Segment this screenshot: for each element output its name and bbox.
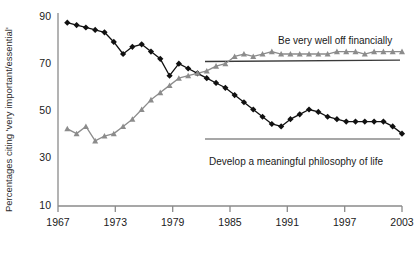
data-point-marker	[371, 118, 377, 124]
data-point-marker	[83, 24, 89, 30]
annotation-financially: Be very well off financially	[278, 35, 392, 46]
annotation-philosophy: Develop a meaningful philosophy of life	[209, 156, 383, 167]
data-point-marker	[362, 118, 368, 124]
data-point-marker	[334, 116, 340, 122]
data-point-marker	[73, 22, 79, 28]
y-tick-label-50: 50	[39, 104, 51, 116]
y-tick-labels: 90 70 50 30 10	[39, 10, 51, 211]
y-tick-label-10: 10	[39, 199, 51, 211]
data-point-marker	[380, 118, 386, 124]
x-tick-label-1967: 1967	[46, 216, 70, 228]
data-point-marker	[241, 51, 247, 57]
data-point-marker	[269, 49, 275, 55]
y-axis-title: Percentages citing 'very important/essen…	[3, 27, 14, 212]
data-point-marker	[64, 20, 70, 26]
chart-container: Percentages citing 'very important/essen…	[0, 0, 416, 254]
data-point-marker	[64, 126, 70, 132]
x-tick-label-1985: 1985	[218, 216, 242, 228]
data-point-marker	[83, 123, 89, 129]
x-tick-label-1997: 1997	[333, 216, 357, 228]
x-tick-label-1973: 1973	[104, 216, 128, 228]
data-point-marker	[297, 111, 303, 117]
data-point-marker	[204, 75, 210, 81]
x-tick-label-1991: 1991	[276, 216, 300, 228]
y-tick-label-30: 30	[39, 151, 51, 163]
data-point-marker	[343, 118, 349, 124]
data-point-marker	[204, 68, 210, 74]
y-tick-label-90: 90	[39, 10, 51, 22]
data-point-marker	[315, 109, 321, 115]
trend-line-financially	[205, 60, 400, 61]
data-point-marker	[325, 114, 331, 120]
data-point-marker	[185, 65, 191, 71]
x-tick-labels: 1967 1973 1979 1985 1991 1997 2003	[46, 216, 414, 228]
data-point-marker	[306, 106, 312, 112]
y-tick-label-70: 70	[39, 57, 51, 69]
x-tick-label-1979: 1979	[161, 216, 185, 228]
x-tick-label-2003: 2003	[390, 216, 414, 228]
data-point-marker	[213, 80, 219, 86]
data-point-marker	[352, 118, 358, 124]
x-tick-marks	[58, 206, 402, 212]
data-point-marker	[92, 27, 98, 33]
line-chart-svg: Percentages citing 'very important/essen…	[0, 0, 416, 254]
